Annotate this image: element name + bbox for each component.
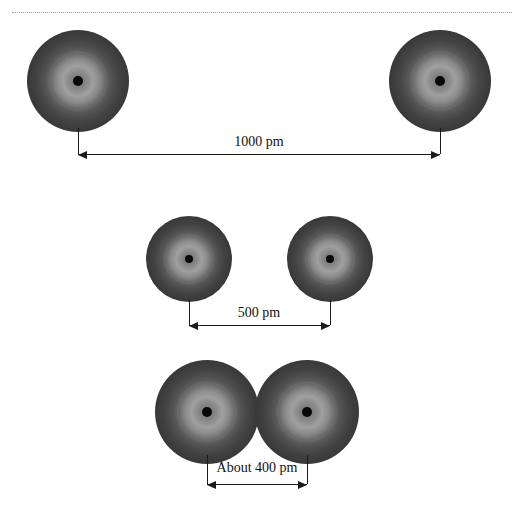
atom-sphere — [27, 30, 129, 132]
distance-label: About 400 pm — [0, 461, 518, 475]
arrowhead-left-icon — [207, 481, 216, 489]
atom-nucleus — [302, 407, 312, 417]
arrowhead-right-icon — [431, 151, 440, 159]
atom-sphere — [155, 360, 259, 464]
atom-nucleus — [202, 407, 212, 417]
arrowhead-left-icon — [189, 322, 198, 330]
dimension-line — [78, 154, 440, 155]
atom-nucleus — [435, 76, 445, 86]
dimension-line — [207, 484, 307, 485]
distance-label: 1000 pm — [0, 135, 520, 149]
atom-nucleus — [73, 76, 83, 86]
atom-sphere — [146, 216, 232, 302]
atom-sphere — [389, 30, 491, 132]
distance-label: 500 pm — [0, 306, 520, 320]
atom-sphere — [255, 360, 359, 464]
arrowhead-left-icon — [78, 151, 87, 159]
top-divider-rule — [12, 12, 512, 13]
atom-distance-figure: 1000 pm500 pmAbout 400 pm — [0, 0, 522, 513]
atom-nucleus — [185, 255, 193, 263]
atom-sphere — [287, 216, 373, 302]
atom-nucleus — [326, 255, 334, 263]
dimension-line — [189, 325, 330, 326]
arrowhead-right-icon — [321, 322, 330, 330]
arrowhead-right-icon — [298, 481, 307, 489]
